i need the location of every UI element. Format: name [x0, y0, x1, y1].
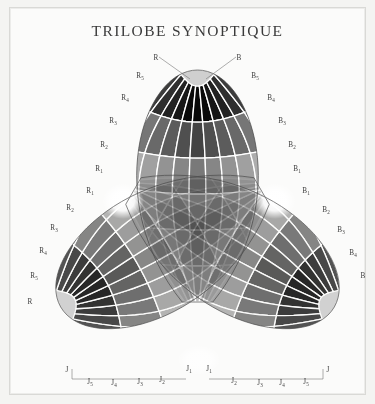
grid-cell: [188, 313, 231, 340]
label-bottom-right-J5: J5: [303, 378, 309, 387]
grid-cell: [265, 147, 289, 188]
label-bottom-left-J: J: [66, 366, 69, 374]
label-right-lower-B2: B2: [322, 206, 330, 215]
grid-cell: [164, 313, 207, 340]
label-right-lower-B1: B1: [302, 187, 310, 196]
label-right-upper-B5: B5: [251, 72, 259, 81]
trilobe-svg: RBR5R4R3R2R1R1R2R3R4R5RB5B4B3B2B1B1B2B3B…: [10, 38, 375, 398]
label-right-upper-B3: B3: [278, 117, 286, 126]
label-left-lower-R: R: [28, 298, 33, 306]
label-left-lower-R4: R4: [39, 247, 47, 256]
label-left-lower-R3: R3: [50, 224, 58, 233]
label-bottom-right-J4: J4: [279, 379, 285, 388]
label-left-upper-R3: R3: [109, 117, 117, 126]
label-right-lower-B4: B4: [349, 249, 357, 258]
trilobe-figure: RBR5R4R3R2R1R1R2R3R4R5RB5B4B3B2B1B1B2B3B…: [10, 38, 375, 398]
label-bottom-left-J4: J4: [111, 379, 117, 388]
label-left-upper-R5: R5: [136, 72, 144, 81]
label-bottom-right-J2: J2: [231, 377, 237, 386]
label-left-lower-R5: R5: [30, 272, 38, 281]
label-left-upper-R4: R4: [121, 94, 129, 103]
grid-cell: [121, 326, 169, 341]
label-bottom-left-J5: J5: [87, 378, 93, 387]
label-bottom-right-J3: J3: [257, 379, 263, 388]
page-background: TRILOBE SYNOPTIQUE: [0, 0, 375, 404]
label-left-upper-R1: R1: [95, 165, 103, 174]
label-right-lower-B: B: [361, 272, 366, 280]
grid-cell: [226, 326, 274, 341]
label-left-lower-R2: R2: [66, 204, 74, 213]
label-right-lower-B3: B3: [337, 226, 345, 235]
leader-B-apex: [206, 57, 236, 79]
label-left-upper-R2: R2: [100, 141, 108, 150]
label-bottom-left-J3: J3: [137, 378, 143, 387]
leader-R-apex: [159, 57, 190, 79]
label-bottom-left-J2: J2: [159, 376, 165, 385]
label-bottom-right-J: J: [327, 366, 330, 374]
label-apex-R: R: [154, 54, 159, 62]
highlight-bottom: [177, 345, 221, 375]
grid-cell: [105, 147, 129, 188]
lobes-group: [51, 70, 345, 341]
plate-frame: TRILOBE SYNOPTIQUE: [9, 7, 366, 395]
label-right-upper-B1: B1: [293, 165, 301, 174]
label-right-upper-B2: B2: [288, 141, 296, 150]
label-right-upper-B4: B4: [267, 94, 275, 103]
label-apex-B: B: [237, 54, 242, 62]
label-left-lower-R1: R1: [86, 187, 94, 196]
